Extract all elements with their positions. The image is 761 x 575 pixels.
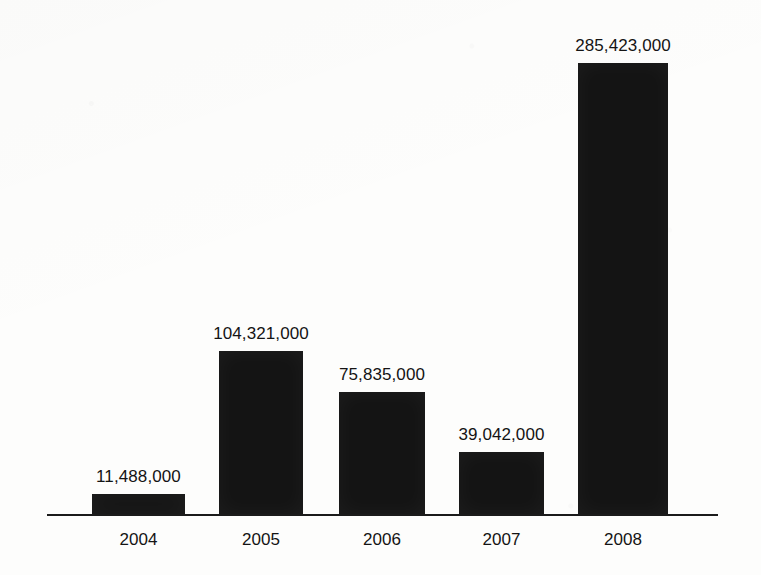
bar-2006 [339,392,425,514]
bar-2004 [92,494,185,514]
category-label-2005: 2005 [201,530,321,549]
bar-value-label-2007: 39,042,000 [402,425,602,444]
bar-2008 [578,63,668,514]
category-label-2004: 2004 [79,530,199,549]
plot-area: 11,488,000 104,321,000 75,835,000 39,042… [0,0,761,575]
bar-value-label-2006: 75,835,000 [282,365,482,384]
category-label-2007: 2007 [442,530,562,549]
bar-value-label-2008: 285,423,000 [523,36,723,55]
bar-2007 [459,452,544,514]
bar-value-label-2005: 104,321,000 [161,324,361,343]
bar-value-label-2004: 11,488,000 [39,467,239,486]
bar-2005 [219,351,303,514]
x-axis-baseline [47,514,718,516]
category-label-2006: 2006 [322,530,442,549]
bar-chart: 11,488,000 104,321,000 75,835,000 39,042… [0,0,761,575]
category-label-2008: 2008 [563,530,683,549]
